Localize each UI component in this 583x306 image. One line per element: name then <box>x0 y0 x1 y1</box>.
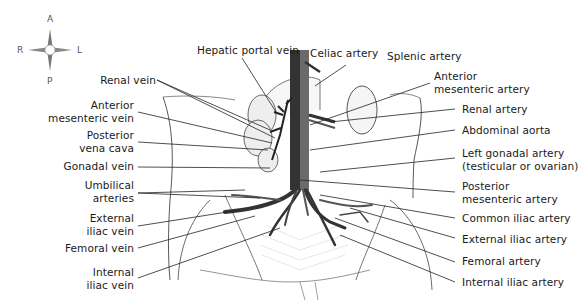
label-text: Femoral artery <box>462 255 541 268</box>
label-text: mesenteric vein <box>48 112 134 125</box>
label-text: Posterior <box>462 180 558 193</box>
compass-anterior-label: A <box>47 14 53 24</box>
label-anterior-mesenteric-artery: Anterior mesenteric artery <box>434 70 530 95</box>
label-text: Left gonadal artery <box>462 147 578 160</box>
label-posterior-vena-cava: Posterior vena cava <box>79 129 134 154</box>
label-external-iliac-artery: External iliac artery <box>462 233 567 246</box>
label-anterior-mesenteric-vein: Anterior mesenteric vein <box>48 99 134 124</box>
label-text: iliac vein <box>86 225 134 238</box>
label-celiac-artery: Celiac artery <box>310 47 378 60</box>
label-text: arteries <box>85 192 134 205</box>
label-text: iliac vein <box>86 279 134 292</box>
label-text: (testicular or ovarian) <box>462 160 578 173</box>
label-splenic-artery: Splenic artery <box>387 50 462 63</box>
label-hepatic-portal-vein: Hepatic portal vein <box>197 44 299 57</box>
label-posterior-mesenteric-artery: Posterior mesenteric artery <box>462 180 558 205</box>
label-text: Anterior <box>48 99 134 112</box>
label-text: External iliac artery <box>462 233 567 246</box>
label-text: Renal vein <box>100 74 156 87</box>
compass-rose-icon <box>28 29 72 71</box>
label-text: Gonadal vein <box>64 160 134 173</box>
label-internal-iliac-artery: Internal iliac artery <box>462 276 564 289</box>
label-renal-vein: Renal vein <box>100 74 156 87</box>
label-text: Splenic artery <box>387 50 462 63</box>
label-text: Anterior <box>434 70 530 83</box>
label-femoral-artery: Femoral artery <box>462 255 541 268</box>
label-text: Hepatic portal vein <box>197 44 299 57</box>
label-text: Abdominal aorta <box>462 124 551 137</box>
compass-posterior-label: P <box>47 76 52 86</box>
label-common-iliac-artery: Common iliac artery <box>462 212 571 225</box>
label-text: Common iliac artery <box>462 212 571 225</box>
label-femoral-vein: Femoral vein <box>65 242 134 255</box>
label-text: Celiac artery <box>310 47 378 60</box>
label-external-iliac-vein: External iliac vein <box>86 212 134 237</box>
label-text: Renal artery <box>462 103 528 116</box>
label-text: Femoral vein <box>65 242 134 255</box>
label-text: Internal iliac artery <box>462 276 564 289</box>
label-abdominal-aorta: Abdominal aorta <box>462 124 551 137</box>
label-text: Posterior <box>79 129 134 142</box>
anatomy-diagram: A P R L Renal vein Anterior mesenteric v… <box>0 0 583 306</box>
label-text: External <box>86 212 134 225</box>
compass-left-label: L <box>77 45 82 55</box>
compass-right-label: R <box>17 45 23 55</box>
label-left-gonadal-artery: Left gonadal artery (testicular or ovari… <box>462 147 578 172</box>
label-text: mesenteric artery <box>462 193 558 206</box>
label-internal-iliac-vein: Internal iliac vein <box>86 266 134 291</box>
label-umbilical-arteries: Umbilical arteries <box>85 179 134 204</box>
label-text: Umbilical <box>85 179 134 192</box>
label-gonadal-vein: Gonadal vein <box>64 160 134 173</box>
label-renal-artery: Renal artery <box>462 103 528 116</box>
label-text: Internal <box>86 266 134 279</box>
label-text: mesenteric artery <box>434 83 530 96</box>
label-text: vena cava <box>79 142 134 155</box>
